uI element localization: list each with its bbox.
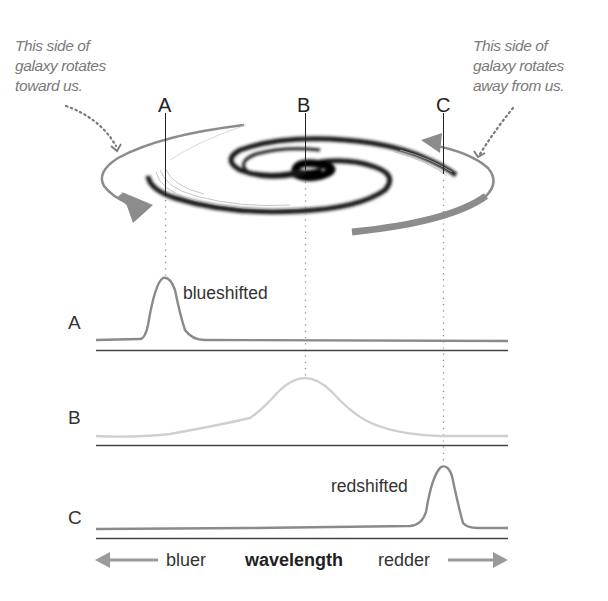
dotted-pointer-left-icon — [66, 106, 121, 151]
spectrum-label-c: C — [68, 508, 82, 528]
arrow-left-icon — [95, 552, 158, 568]
galaxy-rotation-redshift-diagram: This side of galaxy rotates toward us. T… — [0, 0, 608, 601]
spiral-galaxy-icon — [148, 125, 456, 212]
spectrum-a — [96, 278, 508, 351]
redshifted-label: redshifted — [331, 476, 408, 496]
axis-label-redder: redder — [378, 550, 430, 570]
arrow-right-icon — [448, 552, 508, 568]
spectrum-label-a: A — [68, 313, 81, 333]
spectrum-b — [96, 378, 508, 446]
point-label-a: A — [158, 95, 171, 115]
spectrum-c — [96, 466, 508, 538]
spectrum-label-b: B — [68, 408, 81, 428]
axis-label-bluer: bluer — [166, 550, 206, 570]
dotted-pointer-right-icon — [474, 108, 513, 157]
blueshifted-label: blueshifted — [183, 283, 268, 303]
point-label-b: B — [297, 95, 310, 115]
diagram-graphics — [0, 0, 608, 601]
axis-label-wavelength: wavelength — [245, 550, 343, 570]
point-label-c: C — [436, 95, 450, 115]
